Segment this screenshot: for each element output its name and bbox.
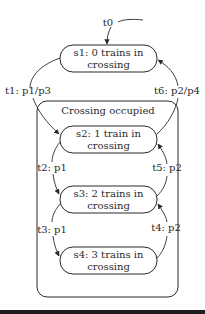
transition-t3: t3: p1	[37, 204, 67, 256]
transition-label-t1: t1: p1/p3	[5, 85, 51, 96]
transition-label-t4: t4: p2	[151, 222, 181, 233]
transition-t4: t4: p2	[151, 204, 181, 258]
state-s1-line2: crossing	[87, 59, 130, 70]
bottom-rule	[0, 310, 205, 314]
superstate-label: Crossing occupied	[61, 105, 155, 116]
transition-t2: t2: p1	[37, 142, 67, 194]
state-s1: s1: 0 trains in crossing	[60, 45, 157, 72]
transition-label-t0: t0	[103, 17, 113, 28]
transition-t5: t5: p2	[152, 144, 182, 196]
transition-label-t5: t5: p2	[152, 162, 182, 173]
state-s4-line2: crossing	[87, 261, 130, 272]
state-s4: s4: 3 trains in crossing	[60, 247, 157, 274]
state-s4-line1: s4: 3 trains in	[74, 249, 144, 260]
state-s3: s3: 2 trains in crossing	[60, 186, 157, 213]
transition-label-t3: t3: p1	[37, 224, 67, 235]
state-s2-line2: crossing	[87, 140, 130, 151]
state-s2-line1: s2: 1 train in	[76, 128, 141, 139]
state-s3-line1: s3: 2 trains in	[74, 188, 144, 199]
state-s1-line1: s1: 0 trains in	[74, 47, 144, 58]
transition-label-t2: t2: p1	[37, 162, 67, 173]
transition-t6: t6: p2/p4	[154, 60, 200, 134]
state-s3-line2: crossing	[87, 200, 130, 211]
state-s2: s2: 1 train in crossing	[60, 126, 157, 153]
transition-t0: t0	[103, 17, 143, 44]
transition-label-t6: t6: p2/p4	[154, 85, 200, 96]
state-diagram: Crossing occupied t0 s1: 0 trains in cro…	[0, 0, 205, 314]
transition-t1: t1: p1/p3	[5, 58, 60, 134]
